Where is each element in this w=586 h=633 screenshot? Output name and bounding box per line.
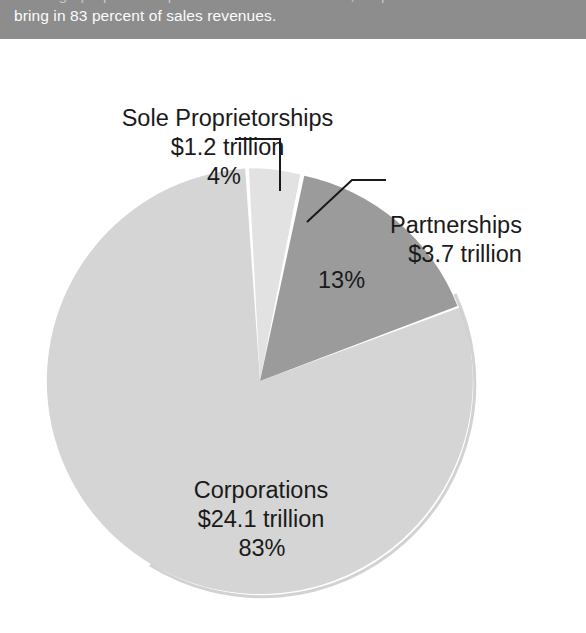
label-corporations-name: Corporations [0,476,522,505]
label-sole-proprietorships-value: $1.2 trillion [0,133,455,162]
label-partnerships-name: Partnerships [390,211,522,240]
pie-chart: Sole Proprietorships $1.2 trillion 4% Pa… [0,39,586,633]
label-partnerships-value: $3.7 trillion [390,240,522,269]
label-corporations-percent: 83% [0,534,524,563]
label-sole-proprietorships-name: Sole Proprietorships [0,104,455,133]
label-sole-proprietorships-percent: 4% [0,162,448,191]
label-corporations-value: $24.1 trillion [0,505,522,534]
label-corporations: Corporations $24.1 trillion [0,476,522,534]
label-sole-proprietorships: Sole Proprietorships $1.2 trillion [0,104,455,162]
label-partnerships-percent: 13% [318,266,365,295]
label-partnerships: Partnerships $3.7 trillion [390,211,522,269]
